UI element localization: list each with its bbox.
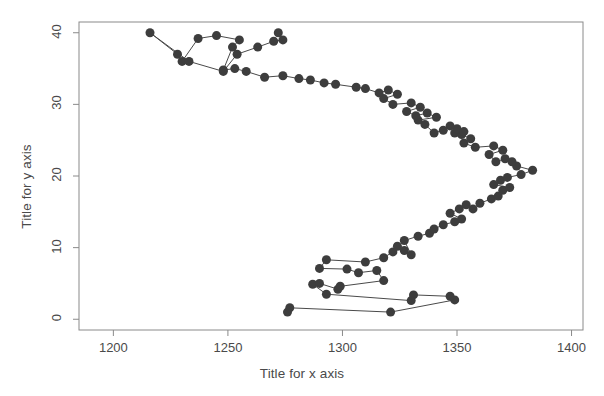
data-point bbox=[212, 31, 221, 40]
data-line bbox=[150, 33, 533, 312]
data-point bbox=[375, 88, 384, 97]
data-point bbox=[430, 225, 439, 234]
data-point bbox=[503, 173, 512, 182]
data-point bbox=[414, 232, 423, 241]
data-point bbox=[489, 141, 498, 150]
data-point bbox=[315, 264, 324, 273]
data-point bbox=[416, 103, 425, 112]
data-point bbox=[322, 290, 331, 299]
data-point bbox=[306, 76, 315, 85]
data-point bbox=[331, 80, 340, 89]
data-point bbox=[446, 209, 455, 218]
data-point bbox=[278, 71, 287, 80]
y-tick-label: 0 bbox=[49, 307, 64, 329]
x-tick-label: 1200 bbox=[99, 340, 128, 355]
data-point bbox=[402, 107, 411, 116]
data-point bbox=[361, 84, 370, 93]
data-point bbox=[315, 279, 324, 288]
y-tick-label: 10 bbox=[49, 235, 64, 257]
data-point bbox=[430, 129, 439, 138]
data-point bbox=[274, 28, 283, 37]
data-point bbox=[466, 134, 475, 143]
data-point bbox=[379, 276, 388, 285]
data-point bbox=[253, 43, 262, 52]
data-point bbox=[361, 258, 370, 267]
data-point bbox=[320, 78, 329, 87]
data-point bbox=[423, 109, 432, 118]
data-point bbox=[194, 34, 203, 43]
data-point bbox=[343, 265, 352, 274]
data-point bbox=[407, 98, 416, 107]
x-tick-label: 1300 bbox=[328, 340, 357, 355]
data-point bbox=[322, 255, 331, 264]
data-point bbox=[400, 236, 409, 245]
y-tick-label: 20 bbox=[49, 164, 64, 186]
data-point bbox=[386, 308, 395, 317]
data-point bbox=[432, 113, 441, 122]
plot-area bbox=[0, 0, 604, 396]
data-point bbox=[407, 296, 416, 305]
data-point bbox=[485, 150, 494, 159]
data-point bbox=[294, 74, 303, 83]
data-point bbox=[173, 50, 182, 59]
data-point bbox=[219, 67, 228, 76]
data-points bbox=[146, 28, 538, 316]
series-polyline bbox=[150, 33, 533, 312]
data-point bbox=[439, 126, 448, 135]
data-point bbox=[384, 86, 393, 95]
data-point bbox=[379, 253, 388, 262]
data-point bbox=[505, 183, 514, 192]
y-tick-label: 30 bbox=[49, 92, 64, 114]
data-point bbox=[354, 268, 363, 277]
data-point bbox=[459, 127, 468, 136]
data-point bbox=[235, 35, 244, 44]
data-point bbox=[528, 166, 537, 175]
x-tick-label: 1250 bbox=[213, 340, 242, 355]
x-axis-title: Title for x axis bbox=[0, 366, 604, 381]
data-point bbox=[269, 37, 278, 46]
data-point bbox=[230, 64, 239, 73]
chart-figure: Title for x axis Title for y axis 120012… bbox=[0, 0, 604, 396]
data-point bbox=[260, 73, 269, 82]
data-point bbox=[407, 250, 416, 259]
data-point bbox=[446, 292, 455, 301]
data-point bbox=[517, 170, 526, 179]
data-point bbox=[233, 50, 242, 59]
data-point bbox=[372, 266, 381, 275]
data-point bbox=[411, 111, 420, 120]
data-point bbox=[457, 215, 466, 224]
x-tick-label: 1350 bbox=[443, 340, 472, 355]
data-point bbox=[491, 157, 500, 166]
data-point bbox=[393, 90, 402, 99]
data-point bbox=[352, 83, 361, 92]
y-tick-label: 40 bbox=[49, 20, 64, 42]
data-point bbox=[185, 57, 194, 66]
data-point bbox=[475, 199, 484, 208]
data-point bbox=[285, 303, 294, 312]
data-point bbox=[498, 146, 507, 155]
data-point bbox=[242, 67, 251, 76]
data-point bbox=[146, 28, 155, 37]
data-point bbox=[336, 282, 345, 291]
data-point bbox=[469, 204, 478, 213]
data-point bbox=[439, 220, 448, 229]
data-point bbox=[388, 100, 397, 109]
data-point bbox=[501, 154, 510, 163]
x-tick-label: 1400 bbox=[557, 340, 586, 355]
y-axis-title: Title for y axis bbox=[19, 97, 34, 277]
data-point bbox=[471, 143, 480, 152]
